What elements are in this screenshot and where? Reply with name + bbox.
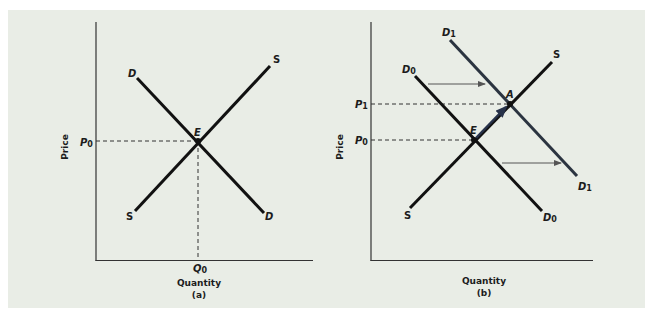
d0-label-bottom: D0: [543, 212, 557, 224]
supply-demand-figure: D S S D E P0 Q0 Quantity (a) Price D1 S …: [0, 0, 652, 318]
demand-curve-d0: [415, 76, 542, 211]
y-axis-label: Price: [60, 134, 70, 160]
x-axis-label: Quantity: [462, 276, 506, 286]
demand-curve: [137, 78, 264, 213]
new-equilibrium-label: A: [505, 89, 514, 100]
panel-a: D S S D E P0 Q0 Quantity (a) Price: [60, 22, 313, 300]
demand-label-top: D: [128, 68, 136, 79]
panel-caption: (b): [477, 288, 492, 298]
equilibrium-point: [195, 138, 201, 144]
y-axis-label: Price: [335, 134, 345, 160]
demand-curve-d1: [450, 40, 577, 176]
panel-caption: (a): [192, 290, 206, 300]
d0-label-top: D0: [402, 64, 416, 76]
supply-label-top: S: [273, 54, 280, 65]
d1-label-top: D1: [442, 27, 456, 39]
new-equilibrium-point: [507, 101, 513, 107]
old-equilibrium-label: E: [470, 125, 477, 136]
d1-label-bottom: D1: [578, 181, 592, 193]
equilibrium-movement-arrow: [476, 107, 506, 138]
price-tick-p0: P0: [80, 137, 93, 149]
quantity-tick-q0: Q0: [193, 263, 208, 275]
old-equilibrium-point: [471, 137, 477, 143]
equilibrium-label: E: [194, 127, 201, 138]
supply-label-top: S: [553, 49, 560, 60]
supply-label-bottom: S: [126, 211, 133, 222]
supply-curve: [135, 66, 270, 211]
demand-label-bottom: D: [265, 211, 273, 222]
supply-label-bottom: S: [404, 210, 411, 221]
price-tick-p0: P0: [355, 135, 368, 147]
price-tick-p1: P1: [355, 99, 368, 111]
panel-b: D1 S D0 A E D1 S D0 P1 P0 Quantity (b) P…: [335, 22, 593, 298]
x-axis-label: Quantity: [177, 278, 221, 288]
